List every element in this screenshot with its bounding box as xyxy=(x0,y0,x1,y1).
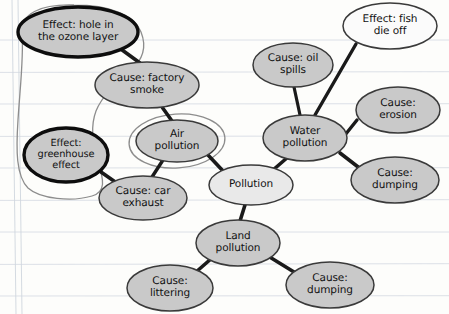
edge-land-dumping xyxy=(268,256,294,272)
node-ellipse-dumping-water[interactable] xyxy=(351,157,439,203)
node-ellipse-fish-die-off[interactable] xyxy=(343,3,437,49)
node-ellipse-dumping-land[interactable] xyxy=(286,262,374,308)
node-ellipse-ozone[interactable] xyxy=(18,7,138,57)
node-ellipse-car-exhaust[interactable] xyxy=(99,176,187,220)
node-ellipse-land-pollution[interactable] xyxy=(196,220,280,266)
concept-map-canvas: Effect: hole inthe ozone layerCause: fac… xyxy=(0,0,449,314)
node-ellipse-littering[interactable] xyxy=(127,265,213,311)
node-ellipse-pollution[interactable] xyxy=(209,165,293,205)
node-ellipse-factory-smoke[interactable] xyxy=(95,62,199,108)
edge-air-car xyxy=(152,160,163,177)
edge-air-pollution-core xyxy=(208,155,224,172)
node-ellipse-air-pollution[interactable] xyxy=(136,120,218,162)
edge-oil-water xyxy=(294,87,300,115)
edge-erosion-water xyxy=(345,120,357,135)
edge-pollution-land xyxy=(240,205,245,221)
node-ellipse-oil-spills[interactable] xyxy=(253,43,333,87)
concept-map-graph xyxy=(0,0,449,314)
node-ellipse-greenhouse[interactable] xyxy=(24,128,108,182)
node-ellipse-erosion[interactable] xyxy=(356,87,440,133)
node-ellipse-water-pollution[interactable] xyxy=(263,115,347,161)
node-layer xyxy=(18,3,440,311)
